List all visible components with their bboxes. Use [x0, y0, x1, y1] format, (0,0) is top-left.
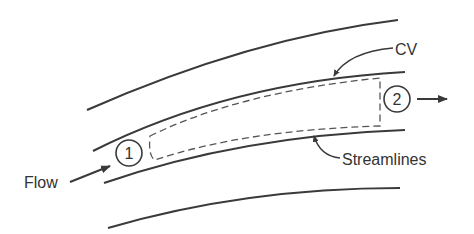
section-1-label: 1 [125, 145, 134, 162]
flow-label: Flow [24, 174, 58, 191]
inflow-arrow-icon [70, 166, 110, 182]
cv-label: CV [395, 41, 418, 58]
streamlines-label: Streamlines [342, 151, 426, 168]
section-1-marker: 1 [116, 140, 142, 166]
section-2-marker: 2 [384, 86, 410, 112]
streamline-diagram: 1 2 Flow CV Streamlines [0, 0, 474, 234]
outer-bottom-streamline [108, 188, 400, 228]
cv-leader-arrow-icon [334, 48, 393, 76]
streamlines-leader-arrow-icon [314, 136, 340, 158]
section-2-label: 2 [393, 91, 402, 108]
upper-streamline [93, 72, 405, 151]
